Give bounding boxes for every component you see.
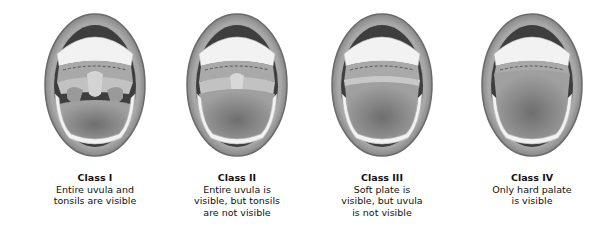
- class-1-description: Entire uvula and tonsils are visible: [20, 184, 170, 207]
- mouth-class-4-illustration: [480, 12, 584, 158]
- mallampati-class-3: Class III Soft plate is visible, but uvu…: [307, 0, 457, 231]
- mouth-class-3-illustration: [330, 12, 434, 158]
- mouth-class-2-illustration: [185, 12, 289, 158]
- class-1-caption: Class I Entire uvula and tonsils are vis…: [20, 172, 170, 207]
- mallampati-class-4: Class IV Only hard palate is visible: [457, 0, 600, 231]
- class-2-title: Class II: [162, 172, 312, 184]
- class-3-caption: Class III Soft plate is visible, but uvu…: [307, 172, 457, 218]
- mouth-class-1-illustration: [43, 12, 147, 158]
- class-2-caption: Class II Entire uvula is visible, but to…: [162, 172, 312, 218]
- class-4-description: Only hard palate is visible: [457, 184, 600, 207]
- class-2-description: Entire uvula is visible, but tonsils are…: [162, 184, 312, 219]
- class-3-description: Soft plate is visible, but uvula is not …: [307, 184, 457, 219]
- class-1-title: Class I: [20, 172, 170, 184]
- class-4-caption: Class IV Only hard palate is visible: [457, 172, 600, 207]
- mallampati-class-1: Class I Entire uvula and tonsils are vis…: [20, 0, 170, 231]
- class-4-title: Class IV: [457, 172, 600, 184]
- mallampati-class-2: Class II Entire uvula is visible, but to…: [162, 0, 312, 231]
- class-3-title: Class III: [307, 172, 457, 184]
